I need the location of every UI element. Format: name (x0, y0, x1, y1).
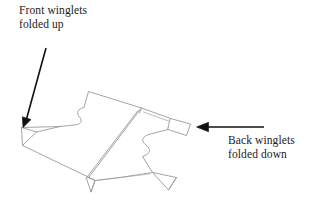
front-winglets-label: Front winglets folded up (19, 4, 87, 31)
front-winglets-arrow (22, 48, 46, 128)
back-winglets-label-line1: Back winglets (228, 134, 295, 148)
front-winglets-label-line2: folded up (19, 18, 87, 32)
glider-line-art (22, 92, 191, 193)
center-crease-lower (86, 111, 138, 179)
back-right-winglet (168, 119, 191, 136)
back-arrowhead (197, 122, 209, 131)
lower-right-winglet-edge (169, 178, 177, 191)
front-left-winglet (22, 128, 37, 146)
body-outline-bottom (23, 146, 153, 181)
lower-left-winglet-crease (91, 181, 95, 193)
lower-panel-line (96, 174, 151, 181)
back-winglets-label: Back winglets folded down (228, 134, 295, 161)
front-arrowhead (22, 117, 31, 128)
glider-diagram (0, 0, 326, 213)
body-outline-right (143, 130, 169, 173)
center-crease-upper (89, 109, 141, 178)
back-winglets-arrow (197, 122, 265, 131)
lower-right-winglet (153, 173, 177, 191)
body-outline-top (22, 92, 171, 128)
annotation-arrows (22, 48, 264, 132)
figure-screenshot: Front winglets folded up Back winglets f… (0, 0, 326, 213)
front-winglets-label-line1: Front winglets (19, 4, 87, 18)
back-winglets-label-line2: folded down (228, 148, 295, 162)
